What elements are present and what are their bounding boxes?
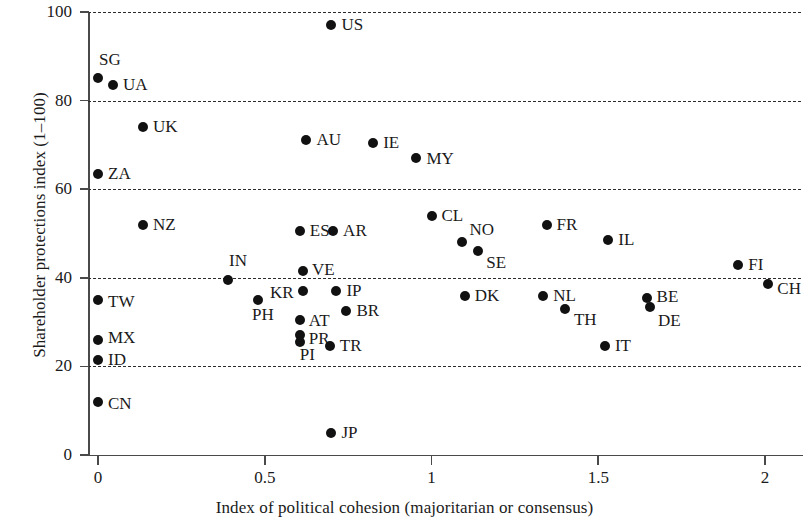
point-label-ve: VE [312,261,335,278]
point-label-fi: FI [748,256,763,273]
y-tick-label-80: 80 [55,92,72,109]
point-label-il: IL [618,231,634,248]
y-tick-label-20: 20 [55,357,72,374]
x-tick-mark-1 [431,456,433,465]
point-label-th: TH [574,311,597,328]
data-point-mx [93,335,103,345]
y-tick-label-60: 60 [55,180,72,197]
x-tick-label-2: 2 [761,469,770,487]
data-point-id [93,355,103,365]
x-tick-label-0-5: 0.5 [254,469,275,487]
point-label-cl: CL [442,207,464,224]
point-label-de: DE [658,312,681,329]
data-point-es [295,226,305,236]
point-label-ar: AR [343,222,367,239]
point-label-tr: TR [340,337,362,354]
x-tick-mark-1-5 [597,456,599,465]
y-tick-label-40: 40 [55,269,72,286]
point-label-kr: KR [270,284,294,301]
point-label-ua: UA [123,76,148,93]
point-label-us: US [341,16,363,33]
data-point-nl [538,291,548,301]
data-point-cn [93,397,103,407]
x-tick-label-1-5: 1.5 [588,469,609,487]
y-axis-title: Shareholder protections index (1–100) [30,5,50,445]
data-point-ie [368,138,378,148]
point-label-it: IT [615,337,631,354]
point-label-fr: FR [557,216,578,233]
x-axis-line [88,455,803,456]
x-tick-label-1: 1 [427,469,436,487]
x-tick-mark-0-5 [264,456,266,465]
data-point-at [295,315,305,325]
point-label-au: AU [316,131,341,148]
data-point-cl [427,211,437,221]
data-point-za [93,169,103,179]
point-label-be: BE [657,288,679,305]
data-point-fi [733,260,743,270]
point-label-es: ES [310,222,330,239]
point-label-in: IN [229,252,247,269]
point-label-dk: DK [475,287,500,304]
point-label-tw: TW [108,293,134,310]
data-point-dk [460,291,470,301]
point-label-pi: PI [300,346,315,363]
data-point-th [560,304,570,314]
plot-area [88,12,801,455]
point-label-id: ID [108,351,126,368]
data-point-tw [93,295,103,305]
point-label-at: AT [309,312,330,329]
point-label-nz: NZ [153,216,176,233]
point-label-my: MY [426,150,453,167]
point-label-nl: NL [553,287,576,304]
data-point-in [223,275,233,285]
point-label-mx: MX [108,329,135,346]
point-label-ie: IE [383,134,399,151]
point-label-uk: UK [153,118,178,135]
data-point-de [645,302,655,312]
scatter-chart-figure: 020406080100 00.511.52 Index of politica… [0,0,809,531]
data-point-nz [138,220,148,230]
data-point-fr [542,220,552,230]
data-point-ph [253,295,263,305]
point-label-sg: SG [99,51,121,68]
point-label-ph: PH [252,306,274,323]
x-tick-label-0: 0 [94,469,103,487]
point-label-se: SE [486,254,506,271]
point-label-br: BR [356,302,379,319]
point-label-za: ZA [108,165,131,182]
point-label-cn: CN [108,395,132,412]
y-tick-label-0: 0 [64,446,73,463]
y-tick-label-100: 100 [47,3,73,20]
x-axis-title: Index of political cohesion (majoritaria… [0,498,809,518]
x-tick-mark-2 [764,456,766,465]
x-tick-mark-0 [97,456,99,465]
point-label-jp: JP [341,424,357,441]
point-label-ch: CH [777,280,801,297]
point-label-no: NO [470,221,495,238]
point-label-ip: IP [346,282,361,299]
data-point-no [457,237,467,247]
